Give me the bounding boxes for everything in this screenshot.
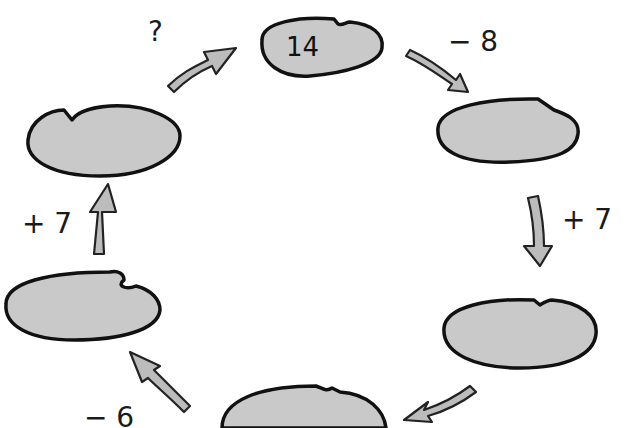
lily-pad-right-lower (444, 300, 596, 368)
operation-label-bottom-left: − 6 (84, 404, 134, 428)
lily-pad-left-lower (6, 271, 160, 340)
operation-label-top-right: − 8 (448, 28, 498, 56)
operation-label-unknown: ? (148, 18, 163, 46)
arrow-icon (130, 352, 190, 412)
lily-pad-left-upper (28, 106, 180, 176)
arrow-icon (90, 184, 116, 254)
cycle-illustration (0, 0, 624, 428)
lily-pad-bottom (222, 386, 386, 428)
lily-pad-right-upper (438, 99, 578, 162)
operation-label-left: + 7 (22, 210, 72, 238)
lily-pad-top (262, 18, 382, 76)
arrow-icon (524, 196, 552, 266)
operation-label-right: + 7 (562, 206, 612, 234)
pad-value-top: 14 (286, 34, 319, 60)
arrow-icon (168, 48, 236, 92)
arrow-icon (404, 386, 476, 422)
